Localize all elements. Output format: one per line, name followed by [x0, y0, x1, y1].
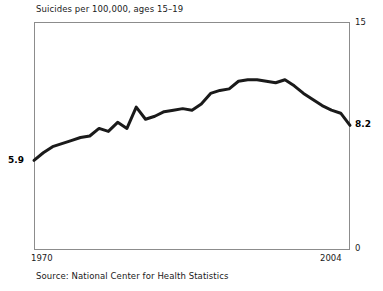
- y-axis-tick-max: 15: [355, 17, 366, 27]
- x-axis-tick-end: 2004: [320, 253, 342, 263]
- start-value-annotation: 5.9: [8, 155, 24, 165]
- source-note: Source: National Center for Health Stati…: [36, 271, 229, 281]
- data-series-line: [34, 22, 350, 250]
- y-axis-tick-min: 0: [355, 243, 360, 253]
- chart-title: Suicides per 100,000, ages 15–19: [36, 4, 183, 14]
- end-value-annotation: 8.2: [355, 119, 371, 129]
- series-polyline: [34, 80, 350, 161]
- x-axis-tick-start: 1970: [31, 253, 53, 263]
- chart-figure: Suicides per 100,000, ages 15–19 15 0 19…: [0, 0, 383, 291]
